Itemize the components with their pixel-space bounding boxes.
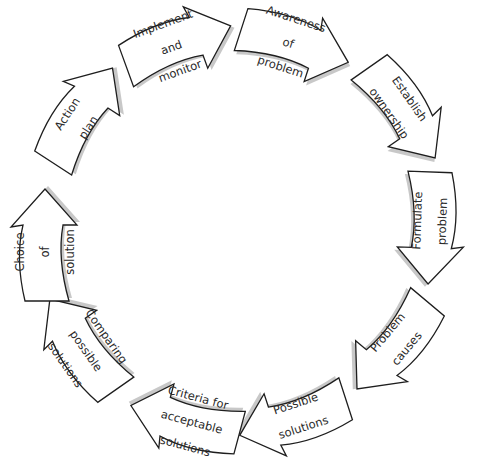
step-label-line: causes	[390, 329, 425, 367]
cycle-step-establish-ownership: Establishownership	[341, 43, 466, 180]
cycle-step-choice-of-solution: Choiceofsolution	[11, 185, 79, 305]
problem-solving-cycle-diagram: Awarenessofproblem Establishownership Fo…	[0, 0, 477, 475]
cycle-step-implement-and-monitor: Implementandmonitor	[110, 0, 246, 97]
step-label-line: Awareness	[265, 4, 328, 35]
step-label: Criteria foracceptablesolutions	[141, 378, 242, 466]
step-label-line: solutions	[277, 414, 330, 442]
step-label-line: problem	[256, 53, 305, 80]
step-label-line: Criteria for	[167, 384, 230, 412]
step-label-line: Implement	[131, 7, 194, 40]
step-label-line: Possible	[272, 391, 320, 417]
step-label-line: Formulate	[410, 191, 425, 249]
step-label-line: solution	[64, 229, 77, 275]
step-label-line: plan	[77, 114, 101, 142]
step-label: Formulateproblem	[395, 177, 466, 265]
step-label-line: solutions	[159, 433, 212, 458]
cycle-step-formulate-problem: Formulateproblem	[394, 167, 466, 289]
step-label-line: monitor	[157, 57, 204, 84]
step-label-line: Choice	[14, 233, 27, 272]
step-label-line: and	[159, 38, 184, 57]
step-label: Choiceofsolution	[11, 209, 79, 295]
step-label-line: Action	[53, 96, 83, 133]
step-label-line: acceptable	[160, 408, 224, 436]
cycle-step-criteria-for-acceptable-solutions: Criteria foracceptablesolutions	[118, 372, 252, 469]
step-label-line: of	[281, 35, 295, 50]
step-label-line: problem	[436, 197, 450, 245]
step-label-line: of	[39, 246, 52, 257]
